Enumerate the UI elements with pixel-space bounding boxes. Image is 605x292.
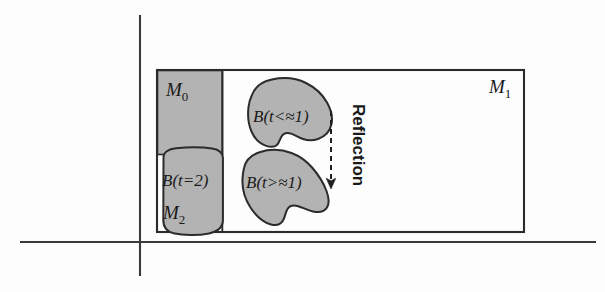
diagram-canvas: M0 M1 B(t=2) M2 B(t<≈1) B(t>≈1) Reflecti… bbox=[0, 0, 605, 292]
label-b-t-equals-2: B(t=2) bbox=[162, 171, 209, 190]
label-b-t-greater-than-1: B(t>≈1) bbox=[246, 173, 302, 192]
figure-root: M0 M1 B(t=2) M2 B(t<≈1) B(t>≈1) Reflecti… bbox=[0, 0, 605, 292]
page-background bbox=[0, 0, 605, 292]
label-reflection: Reflection bbox=[349, 104, 368, 186]
label-b-t-less-than-1: B(t<≈1) bbox=[253, 107, 309, 126]
